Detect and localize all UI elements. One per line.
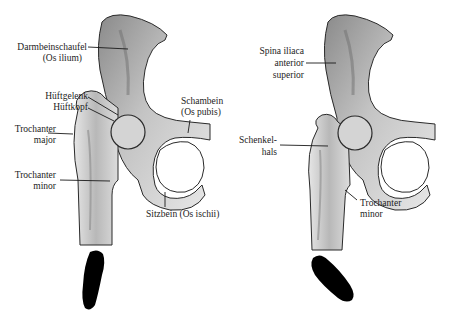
left-femur-shaft — [74, 91, 118, 245]
label-os-pubis: (Os pubis) — [181, 107, 221, 118]
label-trochanter-major-line1: Trochanter — [0, 124, 56, 135]
label-right-trochanter-minor-line2: minor — [360, 209, 383, 220]
right-obturator-foramen — [381, 142, 429, 193]
label-spina-line1: Spina iliaca — [225, 46, 304, 57]
right-footprint-icon — [311, 255, 353, 301]
label-trochanter-minor-line1: Trochanter — [0, 170, 56, 181]
label-spina-line3: superior — [225, 70, 304, 81]
label-hueftgelenk: Hüftgelenk — [0, 91, 88, 102]
left-femoral-head — [111, 115, 145, 149]
label-sitzbein: Sitzbein (Os ischii) — [146, 209, 219, 220]
label-schenkelhals-line2: hals — [225, 147, 277, 158]
right-femoral-head — [338, 116, 372, 150]
label-spina-line2: anterior — [225, 58, 304, 69]
left-footprint-icon — [82, 250, 104, 309]
left-obturator-foramen — [156, 142, 204, 193]
label-trochanter-minor-line2: minor — [0, 181, 56, 192]
label-hueftkopf: Hüftkopf — [0, 102, 88, 113]
label-schambein: Schambein — [181, 96, 223, 107]
label-schenkelhals-line1: Schenkel- — [225, 135, 277, 146]
label-darmbeinschaufel: Darmbeinschaufel — [0, 42, 87, 53]
label-trochanter-major-line2: major — [0, 135, 56, 146]
label-os-ilium: (Os ilium) — [0, 53, 82, 64]
label-right-trochanter-minor-line1: Trochanter — [360, 198, 401, 209]
